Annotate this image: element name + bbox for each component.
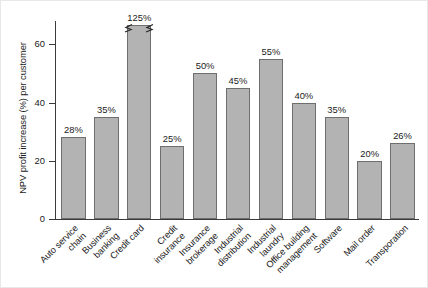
bar-chart-figure: NPV profit increase (%) per customer 020… (0, 0, 428, 288)
y-axis-tick-label: 0 (19, 213, 45, 224)
bar (61, 137, 85, 219)
bar (94, 117, 118, 219)
bar (226, 88, 250, 219)
y-axis-tick (49, 44, 55, 45)
bar-value-label: 50% (185, 60, 225, 71)
bar (325, 117, 349, 219)
bar (357, 161, 381, 219)
y-axis-tick (49, 219, 55, 220)
y-axis-tick-label: 60 (19, 38, 45, 49)
y-axis-tick-label: 20 (19, 155, 45, 166)
bar-value-label: 35% (317, 104, 357, 115)
bar-value-label: 20% (350, 148, 390, 159)
bar (127, 25, 151, 219)
y-axis-line (55, 21, 56, 220)
bar-value-label: 35% (86, 104, 126, 115)
bar-value-label: 26% (383, 130, 423, 141)
bar-value-label: 28% (53, 124, 93, 135)
bar-value-label: 45% (218, 75, 258, 86)
y-axis-tick-label: 40 (19, 97, 45, 108)
bar-value-label: 55% (251, 46, 291, 57)
bar (390, 143, 414, 219)
axis-break-zigzag-icon (124, 23, 133, 34)
bar-value-label: 40% (284, 90, 324, 101)
axis-break-zigzag-icon (145, 23, 154, 34)
bar (160, 146, 184, 219)
bar-value-label: 125% (119, 12, 159, 23)
y-axis-tick (49, 103, 55, 104)
bar-value-label: 25% (152, 133, 192, 144)
bar (292, 103, 316, 219)
y-axis-tick (49, 161, 55, 162)
bar (259, 59, 283, 219)
bar (193, 73, 217, 219)
x-axis-line (55, 219, 419, 220)
